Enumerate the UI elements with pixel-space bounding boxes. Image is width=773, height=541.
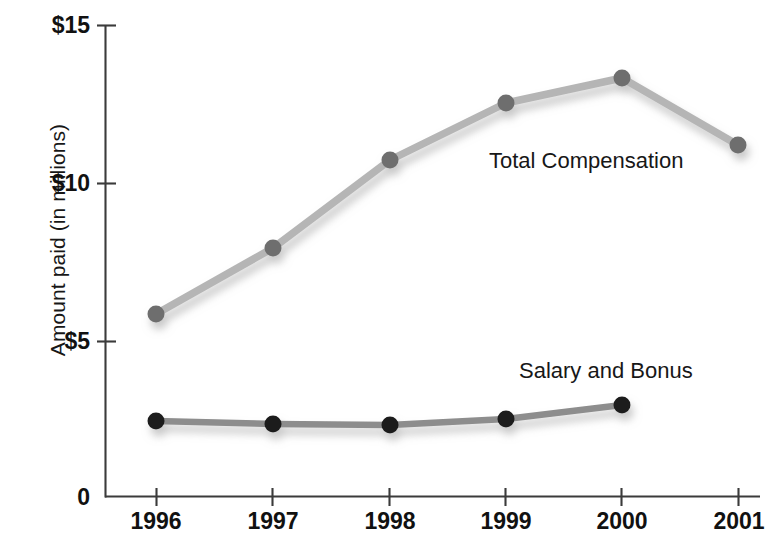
y-tick-label-15: $15 [0, 12, 90, 39]
data-point-total-1997 [265, 240, 282, 257]
x-tick-label-2001: 2001 [689, 508, 773, 535]
x-axis [105, 488, 760, 506]
data-point-total-2001 [730, 137, 747, 154]
data-point-salary-1997 [265, 416, 282, 433]
data-point-salary-1996 [148, 413, 165, 430]
data-point-salary-1998 [382, 417, 399, 434]
series-total-compensation [148, 70, 747, 323]
series-label-total-compensation: Total Compensation [489, 148, 683, 174]
y-tick-label-0: 0 [0, 484, 90, 511]
series-total-compensation-line [156, 78, 738, 314]
y-axis-title: Amount paid (in millions) [46, 30, 70, 450]
y-axis [97, 25, 116, 498]
line-chart: Amount paid (in millions) $15 $10 $5 0 1… [0, 0, 773, 541]
x-tick-label-1999: 1999 [456, 508, 556, 535]
y-tick-label-10: $10 [0, 170, 90, 197]
x-tick-label-1996: 1996 [106, 508, 206, 535]
x-tick-label-1997: 1997 [223, 508, 323, 535]
data-point-total-1998 [382, 152, 399, 169]
chart-plot-area [0, 0, 773, 541]
data-point-salary-1999 [498, 411, 515, 428]
series-label-salary-and-bonus: Salary and Bonus [519, 358, 693, 384]
x-tick-label-2000: 2000 [572, 508, 672, 535]
y-tick-label-5: $5 [0, 328, 90, 355]
data-point-salary-2000 [614, 397, 631, 414]
data-point-total-1999 [498, 95, 515, 112]
x-tick-label-1998: 1998 [340, 508, 440, 535]
data-point-total-2000 [614, 70, 631, 87]
data-point-total-1996 [148, 306, 165, 323]
series-salary-and-bonus [148, 397, 631, 434]
